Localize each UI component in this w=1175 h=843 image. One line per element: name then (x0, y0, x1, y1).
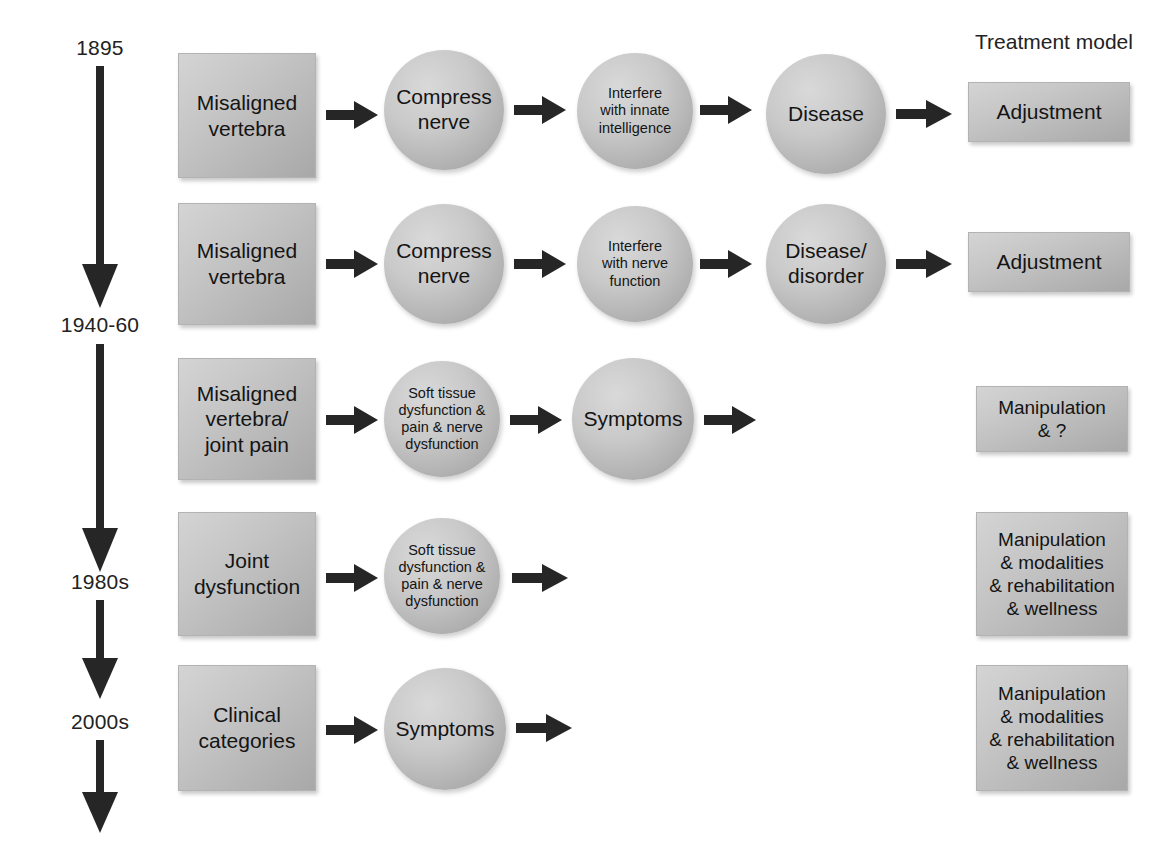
row4-cause-label: Joint dysfunction (194, 548, 300, 599)
row1-arrow-4 (896, 98, 954, 130)
row4-treatment-label: Manipulation & modalities & rehabilitati… (989, 528, 1115, 621)
row2-treatment-label: Adjustment (996, 249, 1101, 275)
row4-cause-box[interactable]: Joint dysfunction (178, 512, 316, 636)
row3-stage-2-circle[interactable]: Symptoms (572, 358, 694, 480)
row2-cause-box[interactable]: Misaligned vertebra (178, 203, 316, 325)
row1-stage-3-label: Disease (788, 102, 864, 127)
row2-stage-3-label: Disease/ disorder (785, 239, 867, 289)
row4-treatment-box[interactable]: Manipulation & modalities & rehabilitati… (976, 512, 1128, 636)
row5-treatment-label: Manipulation & modalities & rehabilitati… (989, 682, 1115, 775)
treatment-model-header: Treatment model (975, 30, 1133, 54)
row2-stage-1-circle[interactable]: Compress nerve (384, 204, 504, 324)
row5-arrow-1 (326, 714, 380, 746)
row2-arrow-3 (700, 248, 754, 280)
row2-arrow-1 (326, 248, 380, 280)
row1-treatment-label: Adjustment (996, 99, 1101, 125)
row3-arrow-2 (510, 404, 564, 436)
row1-cause-box[interactable]: Misaligned vertebra (178, 53, 316, 178)
row2-stage-1-label: Compress nerve (396, 239, 492, 289)
row5-cause-box[interactable]: Clinical categories (178, 665, 316, 791)
row4-stage-1-circle[interactable]: Soft tissue dysfunction & pain & nerve d… (384, 518, 500, 634)
row2-treatment-box[interactable]: Adjustment (968, 232, 1130, 292)
row1-stage-1-label: Compress nerve (396, 85, 492, 135)
timeline-arrow-2 (78, 344, 122, 576)
row3-stage-1-label: Soft tissue dysfunction & pain & nerve d… (398, 385, 485, 453)
row2-cause-label: Misaligned vertebra (197, 238, 297, 289)
row5-stage-1-circle[interactable]: Symptoms (384, 668, 506, 790)
timeline-arrow-1 (78, 66, 122, 314)
row1-stage-2-label: Interfere with innate intelligence (599, 85, 672, 136)
row1-treatment-box[interactable]: Adjustment (968, 82, 1130, 142)
row2-stage-2-circle[interactable]: Interfere with nerve function (577, 206, 693, 322)
row1-stage-3-circle[interactable]: Disease (766, 54, 886, 174)
row5-stage-1-label: Symptoms (395, 717, 494, 742)
timeline-label-1895: 1895 (40, 36, 160, 60)
row3-arrow-3 (704, 404, 758, 436)
row5-treatment-box[interactable]: Manipulation & modalities & rehabilitati… (976, 665, 1128, 791)
row2-stage-3-circle[interactable]: Disease/ disorder (766, 204, 886, 324)
row5-arrow-2 (516, 712, 574, 744)
row3-stage-2-label: Symptoms (583, 407, 682, 432)
timeline-arrow-4 (78, 740, 122, 836)
timeline-label-1980s: 1980s (36, 570, 164, 594)
row2-stage-2-label: Interfere with nerve function (602, 238, 668, 289)
row1-arrow-2 (514, 94, 568, 126)
row2-arrow-4 (896, 248, 954, 280)
row3-stage-1-circle[interactable]: Soft tissue dysfunction & pain & nerve d… (384, 361, 500, 477)
row1-stage-1-circle[interactable]: Compress nerve (384, 50, 504, 170)
row3-treatment-label: Manipulation & ? (998, 396, 1106, 442)
row3-arrow-1 (326, 404, 380, 436)
row3-cause-label: Misaligned vertebra/ joint pain (197, 381, 297, 458)
diagram-canvas: 1895 1940-60 1980s 2000s Treatment model… (0, 0, 1175, 843)
row3-treatment-box[interactable]: Manipulation & ? (976, 386, 1128, 452)
timeline-label-1940-60: 1940-60 (30, 313, 170, 337)
row2-arrow-2 (514, 248, 568, 280)
row4-stage-1-label: Soft tissue dysfunction & pain & nerve d… (398, 542, 485, 610)
timeline-arrow-3 (78, 600, 122, 702)
row1-arrow-3 (700, 94, 754, 126)
row1-cause-label: Misaligned vertebra (197, 90, 297, 141)
row4-arrow-1 (326, 562, 380, 594)
row1-arrow-1 (326, 99, 380, 131)
row1-stage-2-circle[interactable]: Interfere with innate intelligence (577, 53, 693, 169)
row5-cause-label: Clinical categories (199, 702, 296, 753)
row3-cause-box[interactable]: Misaligned vertebra/ joint pain (178, 358, 316, 480)
timeline-label-2000s: 2000s (36, 710, 164, 734)
row4-arrow-2 (512, 562, 570, 594)
